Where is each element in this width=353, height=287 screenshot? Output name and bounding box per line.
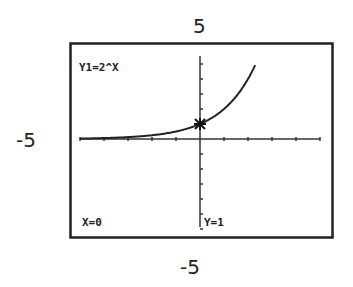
trace-x-value: X=0 (82, 216, 102, 229)
calculator-screen: Y1=2^X X=0 Y=1 (0, 0, 353, 287)
trace-y-value: Y=1 (204, 216, 224, 229)
equation-label: Y1=2^X (79, 61, 119, 74)
trace-cursor-icon (194, 118, 206, 130)
